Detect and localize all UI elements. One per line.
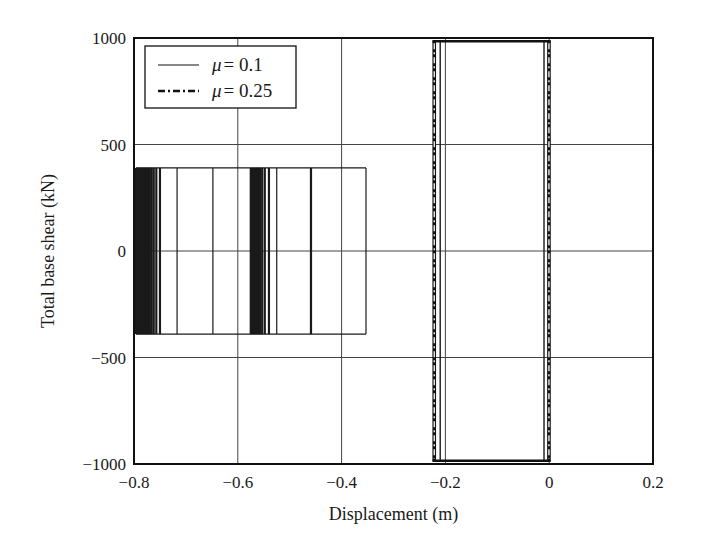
y-axis-label: Total base shear (kN): [38, 174, 59, 328]
x-axis-label: Displacement (m): [329, 504, 458, 525]
x-axis-ticks: −0.8−0.6−0.4−0.200.2: [119, 473, 664, 492]
x-tick-label: −0.4: [326, 473, 357, 492]
y-tick-label: 500: [101, 136, 127, 155]
hysteresis-chart: −0.8−0.6−0.4−0.200.2 10005000−500−1000 D…: [0, 0, 702, 555]
x-tick-label: −0.2: [430, 473, 461, 492]
legend: μ= 0.1μ= 0.25: [145, 46, 296, 108]
x-tick-label: −0.6: [222, 473, 253, 492]
y-tick-label: −500: [91, 349, 126, 368]
legend-label-0: μ= 0.1: [211, 54, 263, 75]
legend-label-1: μ= 0.25: [211, 80, 272, 101]
x-tick-label: 0: [545, 473, 554, 492]
y-tick-label: 0: [118, 242, 127, 261]
y-tick-label: 1000: [92, 29, 126, 48]
y-axis-ticks: 10005000−500−1000: [82, 29, 126, 474]
y-tick-label: −1000: [82, 455, 126, 474]
x-tick-label: 0.2: [642, 473, 663, 492]
x-tick-label: −0.8: [119, 473, 150, 492]
